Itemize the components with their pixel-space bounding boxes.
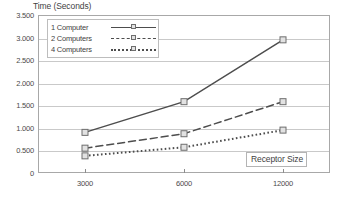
y-axis-title: Time (Seconds) [33,1,91,11]
x-tick-label: 3000 [77,179,93,188]
y-tick-label: 3.000 [0,33,34,42]
y-tick-label: 1.500 [0,101,34,110]
data-point-marker [280,37,286,43]
data-point-marker [82,129,88,135]
y-tick-label: 3.500 [0,11,34,20]
data-point-marker [181,144,187,150]
legend-item-2-computers: 2 Computers [51,33,156,44]
data-point-marker [82,153,88,159]
legend-label: 1 Computer [51,23,109,32]
legend-swatch-dashed [111,34,156,43]
y-tick-label: 0.500 [0,146,34,155]
x-tick-label: 6000 [176,179,192,188]
legend-swatch-dotted [111,45,156,54]
line-chart: Time (Seconds) 3.500 3.000 2.500 2.000 1… [0,0,343,202]
y-tick-label: 2.000 [0,78,34,87]
data-point-marker [280,127,286,133]
legend-swatch-solid [111,23,156,32]
y-tick-label: 2.500 [0,56,34,65]
legend-label: 4 Computers [51,45,109,54]
legend-item-4-computers: 4 Computers [51,44,156,55]
legend-item-1-computer: 1 Computer [51,22,156,33]
legend-marker-square [131,46,136,51]
legend-marker-square [131,24,136,29]
data-point-marker [82,145,88,151]
x-tick-label: 12000 [273,179,293,188]
data-point-marker [181,99,187,105]
legend-label: 2 Computers [51,34,109,43]
data-point-marker [280,99,286,105]
data-point-marker [181,131,187,137]
series-line [85,102,283,148]
y-tick-label: 1.000 [0,123,34,132]
y-tick-label: 0 [0,169,34,178]
legend: 1 Computer 2 Computers 4 Computers [47,19,159,58]
legend-marker-square [131,35,136,40]
